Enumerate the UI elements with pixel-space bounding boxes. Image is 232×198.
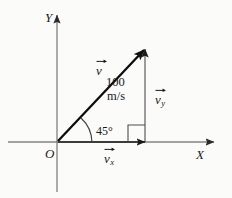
resultant-vector-symbol: v bbox=[96, 63, 102, 78]
vector-diagram-figure: Y X O 45° 100 m/s v vy bbox=[0, 0, 232, 198]
x-component-subscript: x bbox=[110, 157, 114, 167]
x-component-label: vx bbox=[104, 151, 114, 167]
angle-arc-path bbox=[81, 118, 92, 142]
y-component-symbol: v bbox=[155, 92, 161, 107]
y-component-subscript: y bbox=[161, 98, 165, 108]
right-angle-marker bbox=[128, 125, 145, 142]
angle-arc bbox=[81, 118, 92, 142]
origin-label: O bbox=[45, 147, 54, 160]
magnitude-label: 100 m/s bbox=[106, 76, 125, 102]
y-component-label: vy bbox=[155, 92, 165, 108]
resultant-vector-symbol-body: v bbox=[96, 63, 102, 79]
x-component-symbol: v bbox=[104, 151, 110, 166]
resultant-vector-label: v bbox=[96, 63, 102, 79]
right-angle-square bbox=[128, 125, 145, 142]
angle-label: 45° bbox=[96, 125, 113, 137]
x-component-symbol-body: vx bbox=[104, 151, 114, 167]
y-axis-label: Y bbox=[45, 11, 52, 24]
magnitude-value: 100 bbox=[106, 76, 125, 89]
y-component-symbol-body: vy bbox=[155, 92, 165, 108]
magnitude-unit: m/s bbox=[107, 90, 125, 103]
x-axis-label: X bbox=[196, 148, 204, 161]
